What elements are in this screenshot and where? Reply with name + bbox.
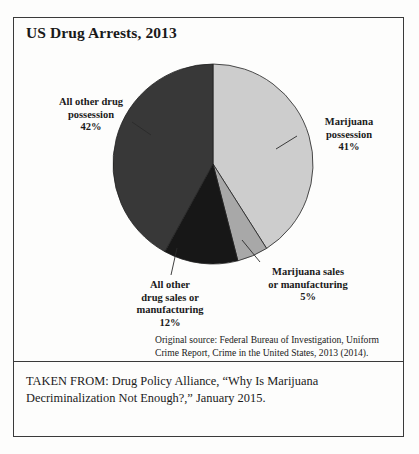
leader-line-mj-possession [276, 136, 297, 149]
pie-label-line: Marijuana [301, 116, 397, 129]
source-note: Original source: Federal Bureau of Inves… [155, 333, 397, 359]
pie-label-line: possession [35, 109, 147, 122]
pie-label-line: manufacturing [114, 304, 226, 317]
pie-label-line: or manufacturing [241, 279, 375, 292]
figure-box: US Drug Arrests, 2013 All other drug pos… [13, 17, 404, 437]
pie-label-value: 5% [241, 291, 375, 304]
pie-label-line: All other drug [35, 96, 147, 109]
pie-label-line: All other [114, 279, 226, 292]
pie-label-value: 41% [301, 141, 397, 154]
pie-label-value: 42% [35, 121, 147, 134]
pie-label-all-other-drug-possession: All other drug possession 42% [35, 96, 147, 134]
leader-line-mj-sales [242, 240, 260, 262]
pie-label-value: 12% [114, 317, 226, 330]
taken-from-note: TAKEN FROM: Drug Policy Alliance, “Why I… [26, 373, 388, 407]
pie-label-line: Marijuana sales [241, 266, 375, 279]
pie-label-all-other-drug-sales-or-manufacturing: All other drug sales or manufacturing 12… [114, 279, 226, 329]
divider [14, 361, 403, 362]
pie-label-marijuana-sales-or-manufacturing: Marijuana sales or manufacturing 5% [241, 266, 375, 304]
pie-label-marijuana-possession: Marijuana possession 41% [301, 116, 397, 154]
pie-label-line: possession [301, 129, 397, 142]
leader-line-other-sales [171, 248, 177, 275]
pie-label-line: drug sales or [114, 292, 226, 305]
